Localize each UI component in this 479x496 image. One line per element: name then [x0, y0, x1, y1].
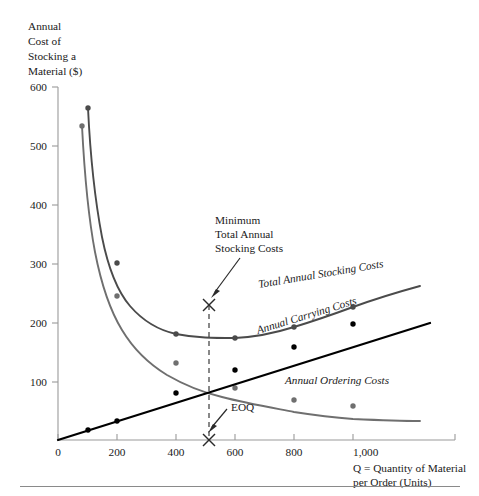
x-axis-title-line-1: Q = Quantity of Material [353, 462, 466, 474]
minimum-annotation-arrow-icon [211, 258, 240, 298]
y-axis-title-line-1: Annual [28, 20, 61, 32]
series-label-annual-ordering-costs: Annual Ordering Costs [284, 374, 390, 386]
x-axis-ticks [58, 434, 455, 440]
x-axis-title-line-2: per Order (Units) [353, 476, 432, 489]
y-tick-label-100: 100 [30, 376, 47, 388]
minimum-annotation-line-3: Stocking Costs [215, 242, 283, 254]
y-tick-label-400: 400 [30, 199, 47, 211]
y-tick-label-300: 300 [30, 258, 47, 270]
series-label-annual-carrying-costs: Annual Carrying Costs [254, 294, 358, 336]
x-tick-label-0: 0 [55, 446, 61, 458]
y-tick-label-500: 500 [30, 140, 47, 152]
y-axis-title-line-3: Stocking a [28, 50, 76, 62]
y-tick-label-200: 200 [30, 317, 47, 329]
y-axis-title-line-2: Cost of [28, 35, 61, 47]
series-label-total-annual-stocking-costs: Total Annual Stocking Costs [257, 257, 384, 290]
y-axis-title-line-4: Material ($) [28, 65, 82, 78]
x-tick-label-200: 200 [109, 446, 126, 458]
x-tick-label-400: 400 [168, 446, 185, 458]
x-tick-label-1000: 1,000 [353, 446, 379, 458]
x-tick-label-800: 800 [286, 446, 303, 458]
y-tick-label-600: 600 [30, 81, 47, 93]
minimum-annotation-line-1: Minimum [215, 214, 260, 226]
minimum-annotation-line-2: Total Annual [215, 228, 274, 240]
eoq-cost-chart-figure: Annual Cost of Stocking a Material ($) 6… [0, 0, 479, 496]
chart-canvas: Annual Cost of Stocking a Material ($) 6… [0, 0, 479, 496]
y-axis-ticks [52, 87, 58, 382]
annual-ordering-costs-markers [79, 123, 355, 408]
x-tick-label-600: 600 [227, 446, 244, 458]
eoq-annotation-arrow-icon [208, 409, 227, 433]
bottom-horizontal-rule [20, 486, 460, 487]
eoq-annotation-label: EOQ [231, 401, 254, 413]
